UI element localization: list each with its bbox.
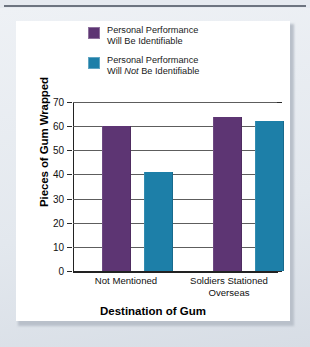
y-axis-tick	[67, 199, 72, 200]
plot-wrapper: Pieces of Gum Wrapped 706050403020100 No…	[16, 21, 290, 321]
y-axis-tick	[67, 223, 72, 224]
y-axis-tick	[67, 271, 72, 272]
bar[interactable]	[144, 172, 173, 271]
y-axis-tick-label: 70	[53, 97, 64, 108]
y-axis-tick-label: 30	[53, 193, 64, 204]
y-axis-tick-label: 60	[53, 121, 64, 132]
y-axis-tick-right	[277, 102, 282, 103]
x-category-label: Soldiers Stationed Overseas	[179, 275, 279, 298]
y-axis-tick-label: 20	[53, 217, 64, 228]
gridline	[73, 102, 277, 103]
y-axis-tick	[67, 150, 72, 151]
y-axis-tick-label: 40	[53, 169, 64, 180]
y-axis-tick-label: 10	[53, 241, 64, 252]
y-axis-tick	[67, 126, 72, 127]
figure-root: Personal Performance Will Be Identifiabl…	[0, 0, 310, 347]
x-category-line-2: Overseas	[208, 287, 249, 298]
y-axis-tick-right	[277, 271, 282, 272]
x-category-line-1: Not Mentioned	[95, 275, 157, 286]
bar-chart: Personal Performance Will Be Identifiabl…	[16, 21, 290, 321]
bar[interactable]	[102, 126, 131, 271]
y-axis-tick	[67, 102, 72, 103]
x-category-line-1: Soldiers Stationed	[190, 275, 268, 286]
gridline	[73, 271, 277, 272]
x-category-label: Not Mentioned	[76, 275, 176, 287]
plot-area: 706050403020100	[73, 102, 277, 271]
bar[interactable]	[213, 117, 242, 272]
bar[interactable]	[255, 121, 284, 271]
x-axis-title: Destination of Gum	[16, 305, 290, 317]
y-axis-tick	[67, 174, 72, 175]
y-axis-tick-label: 0	[58, 266, 64, 277]
y-axis-tick-label: 50	[53, 145, 64, 156]
y-axis-title: Pieces of Gum Wrapped	[38, 67, 50, 217]
page-top-rule	[4, 5, 306, 7]
y-axis-tick	[67, 247, 72, 248]
